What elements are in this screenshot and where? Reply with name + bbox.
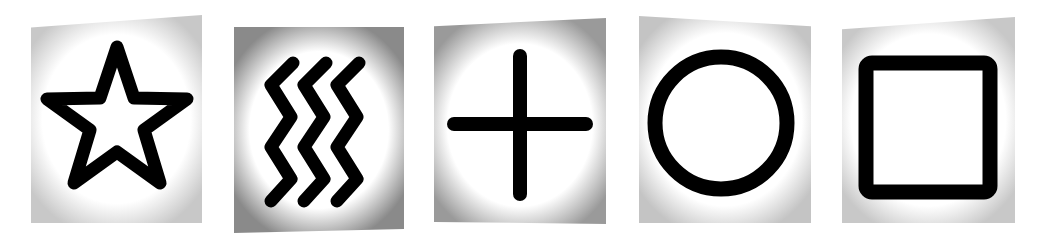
card-star[interactable]: Star bbox=[31, 15, 202, 223]
circle-icon bbox=[639, 16, 811, 223]
square-icon bbox=[842, 17, 1015, 223]
star-icon bbox=[31, 15, 202, 223]
card-plus[interactable]: Plus bbox=[434, 18, 606, 224]
plus-icon bbox=[434, 18, 606, 224]
waves-icon bbox=[234, 27, 404, 233]
card-circle[interactable]: Circle bbox=[639, 16, 811, 223]
card-square[interactable]: Square bbox=[842, 17, 1015, 223]
card-waves[interactable]: Waves bbox=[234, 27, 404, 233]
